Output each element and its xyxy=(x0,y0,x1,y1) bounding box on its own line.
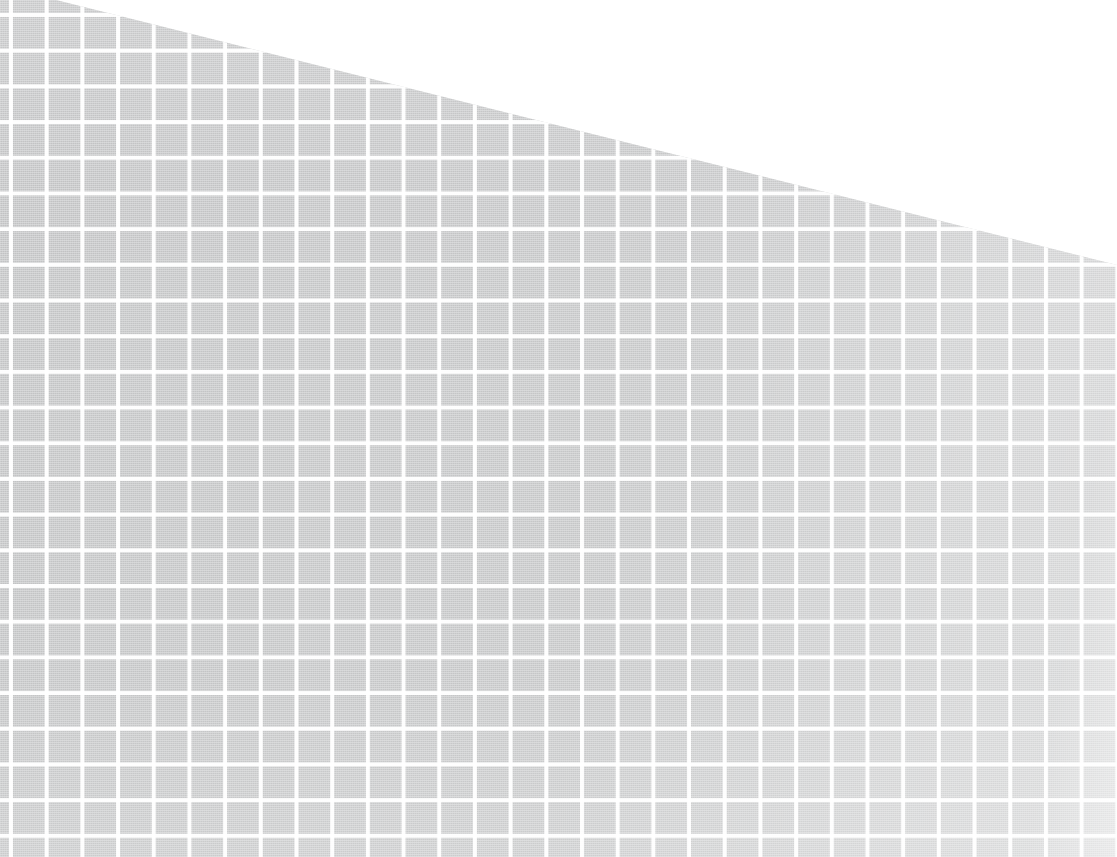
image-canvas xyxy=(0,0,1117,857)
grid-paper-sheet xyxy=(0,0,1117,857)
paper-surface xyxy=(0,0,1117,857)
paper-edge-shadow xyxy=(0,0,1117,857)
